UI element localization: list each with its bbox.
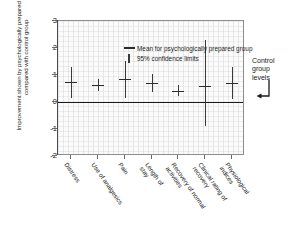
x-axis-label: Distress	[64, 161, 83, 184]
x-tick-mark	[231, 155, 232, 159]
control-group-annotation: Control group levels	[252, 57, 275, 82]
annotation-line-1: Control	[252, 57, 275, 65]
mean-dash-icon	[121, 47, 137, 49]
zero-reference-line	[58, 102, 243, 103]
legend: Mean for psychologically prepared group …	[121, 43, 271, 63]
annotation-line-2: group	[252, 65, 275, 73]
mean-marker	[92, 85, 104, 86]
x-tick-mark	[97, 155, 98, 159]
plot-gridlines	[58, 21, 243, 154]
mean-marker	[146, 83, 158, 84]
x-tick-mark	[204, 155, 205, 159]
x-tick-mark	[124, 155, 125, 159]
x-axis-label: Length ofstay	[138, 161, 165, 191]
y-tick-mark	[52, 101, 57, 102]
mean-marker	[226, 83, 238, 84]
legend-label-mean: Mean for psychologically prepared group	[137, 45, 252, 52]
annotation-arrow-icon	[256, 80, 270, 101]
y-tick-mark	[52, 20, 57, 21]
mean-marker	[119, 79, 131, 80]
mean-marker	[199, 86, 211, 87]
x-tick-mark	[70, 155, 71, 159]
y-tick-mark	[52, 128, 57, 129]
mean-marker	[172, 91, 184, 92]
legend-label-confidence: 95% confidence limits	[137, 55, 199, 62]
legend-item-confidence: 95% confidence limits	[121, 53, 271, 63]
y-axis-title: Improvement shown by psychologically pre…	[15, 0, 30, 137]
mean-marker	[65, 82, 77, 83]
y-tick-mark	[52, 155, 57, 156]
y-tick-mark	[52, 74, 57, 75]
y-axis-line	[57, 20, 58, 155]
x-axis-label: Pain	[117, 161, 130, 175]
figure: Improvement shown by psychologically pre…	[0, 0, 304, 228]
plot-area: Mean for psychologically prepared group …	[57, 20, 244, 155]
confidence-bar-icon	[121, 54, 137, 63]
y-tick-mark	[52, 47, 57, 48]
x-tick-mark	[177, 155, 178, 159]
x-tick-mark	[151, 155, 152, 159]
legend-item-mean: Mean for psychologically prepared group	[121, 43, 271, 53]
